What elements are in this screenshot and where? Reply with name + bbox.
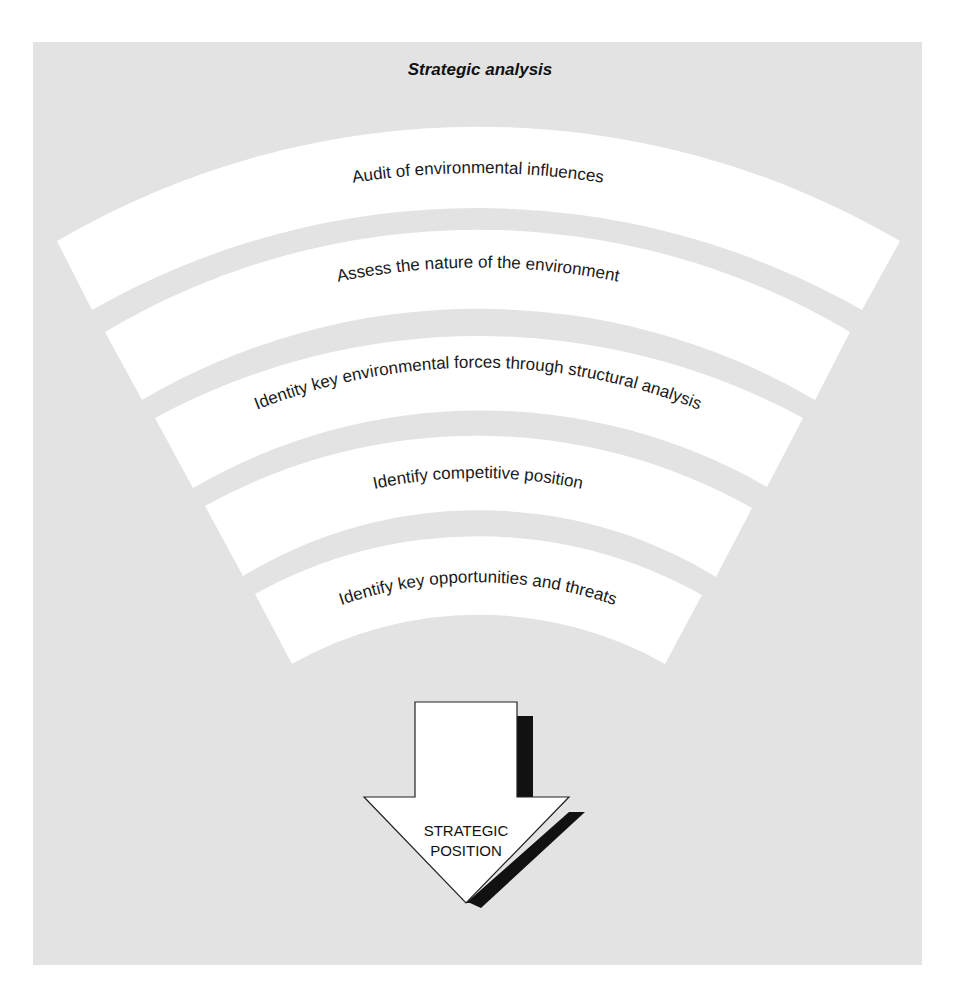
arrow-label-line1: STRATEGIC — [424, 822, 509, 839]
arrow-label-line2: POSITION — [430, 842, 502, 859]
strategic-analysis-diagram: Strategic analysis Audit of environmenta… — [0, 0, 962, 992]
diagram-title: Strategic analysis — [408, 60, 553, 79]
